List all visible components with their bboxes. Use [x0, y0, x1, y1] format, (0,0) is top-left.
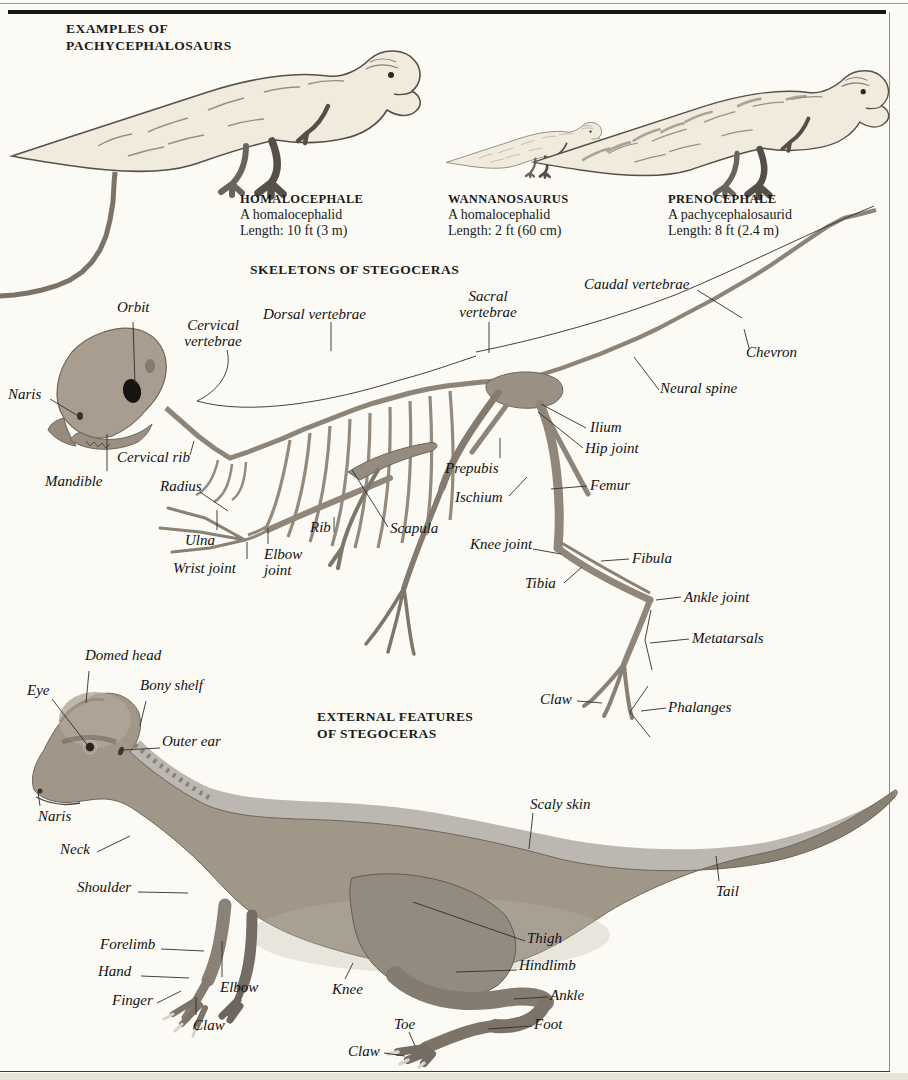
- wannanosaurus-caption: WANNANOSAURUS A homalocephalid Length: 2…: [448, 192, 663, 239]
- label-thigh: Thigh: [527, 930, 562, 946]
- dinosaur-length: Length: 8 ft (2.4 m): [668, 223, 883, 239]
- label-phalanges: Phalanges: [668, 699, 731, 715]
- label-foot: Foot: [534, 1016, 562, 1032]
- dinosaur-length: Length: 2 ft (60 cm): [448, 223, 663, 239]
- dinosaur-family: A homalocephalid: [240, 207, 455, 223]
- dinosaur-name: WANNANOSAURUS: [448, 192, 663, 207]
- label-rib: Rib: [310, 519, 331, 535]
- skeleton-heading: SKELETONS OF STEGOCERAS: [250, 261, 459, 278]
- dinosaur-length: Length: 10 ft (3 m): [240, 223, 455, 239]
- book-page: EXAMPLES OF PACHYCEPHALOSAURS SKELETONS …: [0, 0, 908, 1080]
- homalocephale-illustration: [12, 51, 420, 196]
- label-cervical-vertebrae: Cervical vertebrae: [176, 317, 250, 349]
- label-naris-skeleton: Naris: [8, 386, 41, 402]
- label-shoulder: Shoulder: [77, 879, 131, 895]
- label-bony-shelf: Bony shelf: [140, 677, 203, 693]
- label-knee-joint: Knee joint: [470, 536, 532, 552]
- label-scaly-skin: Scaly skin: [530, 796, 590, 812]
- label-ankle: Ankle: [550, 987, 584, 1003]
- label-claw-hindlimb: Claw: [348, 1043, 380, 1059]
- label-toe: Toe: [394, 1016, 415, 1032]
- label-ilium: Ilium: [590, 419, 622, 435]
- label-elbow: Elbow: [220, 979, 258, 995]
- label-cervical-rib: Cervical rib: [117, 449, 190, 465]
- label-chevron: Chevron: [746, 344, 797, 360]
- label-domed-head: Domed head: [85, 647, 161, 663]
- label-ischium: Ischium: [455, 489, 503, 505]
- label-femur: Femur: [590, 477, 630, 493]
- label-naris-external: Naris: [38, 808, 71, 824]
- label-fibula: Fibula: [632, 550, 672, 566]
- prenocephale-caption: PRENOCEPHALE A pachycephalosaurid Length…: [668, 192, 883, 239]
- label-knee: Knee: [332, 981, 363, 997]
- label-ulna: Ulna: [185, 532, 215, 548]
- label-hindlimb: Hindlimb: [519, 957, 576, 973]
- dinosaur-family: A homalocephalid: [448, 207, 663, 223]
- label-finger: Finger: [112, 992, 153, 1008]
- label-caudal-vertebrae: Caudal vertebrae: [584, 276, 689, 292]
- second-skeleton-tail-illustration: [0, 172, 115, 296]
- label-sacral-vertebrae: Sacral vertebrae: [452, 288, 524, 320]
- label-metatarsals: Metatarsals: [692, 630, 764, 646]
- dinosaur-name: PRENOCEPHALE: [668, 192, 883, 207]
- label-mandible: Mandible: [45, 473, 103, 489]
- label-eye: Eye: [27, 682, 49, 698]
- label-tibia: Tibia: [525, 575, 556, 591]
- label-orbit: Orbit: [117, 299, 150, 315]
- label-scapula: Scapula: [390, 520, 438, 536]
- label-hip-joint: Hip joint: [585, 440, 639, 456]
- label-wrist-joint: Wrist joint: [173, 560, 236, 576]
- label-claw-forelimb: Claw: [193, 1017, 225, 1033]
- page-artwork: [0, 0, 908, 1080]
- label-claw-skeleton: Claw: [540, 691, 572, 707]
- external-heading: EXTERNAL FEATURES OF STEGOCERAS: [317, 708, 473, 742]
- dinosaur-name: HOMALOCEPHALE: [240, 192, 455, 207]
- label-dorsal-vertebrae: Dorsal vertebrae: [263, 306, 366, 322]
- label-elbow-joint: Elbow joint: [264, 546, 320, 578]
- label-radius: Radius: [160, 478, 202, 494]
- label-prepubis: Prepubis: [445, 460, 499, 476]
- label-tail: Tail: [716, 883, 739, 899]
- label-neck: Neck: [60, 841, 90, 857]
- label-hand: Hand: [98, 963, 131, 979]
- label-ankle-joint: Ankle joint: [684, 589, 749, 605]
- dinosaur-family: A pachycephalosaurid: [668, 207, 883, 223]
- label-outer-ear: Outer ear: [162, 733, 221, 749]
- label-neural-spine: Neural spine: [660, 380, 737, 396]
- examples-heading: EXAMPLES OF PACHYCEPHALOSAURS: [66, 20, 232, 54]
- label-forelimb: Forelimb: [100, 936, 155, 952]
- homalocephale-caption: HOMALOCEPHALE A homalocephalid Length: 1…: [240, 192, 455, 239]
